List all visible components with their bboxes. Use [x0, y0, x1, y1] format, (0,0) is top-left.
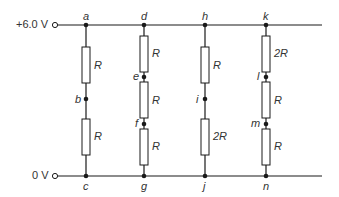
resistor-kl-value: 2R	[274, 48, 288, 59]
node-b-dot	[84, 97, 89, 102]
resistor-ab-value: R	[94, 60, 102, 71]
resistor-ef-value: R	[152, 95, 160, 106]
node-k-dot	[264, 23, 269, 28]
node-f-label: f	[135, 118, 138, 129]
node-i-dot	[203, 97, 208, 102]
node-n-dot	[264, 174, 269, 179]
node-n-label: n	[263, 181, 269, 192]
bottom-terminal	[52, 173, 57, 178]
resistor-de-value: R	[152, 48, 160, 59]
resistor-mn-value: R	[274, 141, 282, 152]
resistor-lm	[262, 82, 270, 118]
resistor-ab	[82, 47, 90, 83]
node-j-dot	[203, 174, 208, 179]
resistor-ef	[140, 82, 148, 118]
resistor-ij	[201, 119, 209, 155]
node-h-label: h	[202, 11, 208, 22]
resistor-bc	[82, 119, 90, 155]
resistor-lm-value: R	[274, 95, 282, 106]
top-rail-label: +6.0 V	[16, 19, 48, 30]
node-i-label: i	[196, 94, 198, 105]
resistor-hi	[201, 47, 209, 83]
node-g-dot	[142, 174, 147, 179]
node-m-dot	[264, 122, 269, 127]
resistor-fg	[140, 129, 148, 165]
top-terminal	[52, 22, 57, 27]
resistor-mn	[262, 129, 270, 165]
resistor-fg-value: R	[152, 141, 160, 152]
node-c-dot	[84, 174, 89, 179]
resistor-kl	[262, 36, 270, 72]
node-j-label: j	[203, 181, 205, 192]
node-a-dot	[84, 23, 89, 28]
node-e-dot	[142, 75, 147, 80]
node-d-label: d	[141, 11, 147, 22]
node-l-dot	[264, 75, 269, 80]
circuit-diagram: +6.0 V 0 V a b c d e f g h i j k l m n R…	[0, 0, 339, 197]
circuit-svg	[0, 0, 339, 197]
resistor-hi-value: R	[213, 60, 221, 71]
node-m-label: m	[251, 118, 260, 129]
resistor-bc-value: R	[94, 131, 102, 142]
node-g-label: g	[141, 181, 147, 192]
node-c-label: c	[83, 181, 89, 192]
node-l-label: l	[257, 71, 259, 82]
node-f-dot	[142, 122, 147, 127]
resistor-de	[140, 36, 148, 72]
resistor-ij-value: 2R	[213, 131, 227, 142]
node-a-label: a	[83, 11, 89, 22]
node-b-label: b	[75, 94, 81, 105]
node-d-dot	[142, 23, 147, 28]
bottom-rail-label: 0 V	[32, 170, 49, 181]
node-h-dot	[203, 23, 208, 28]
node-k-label: k	[263, 11, 269, 22]
node-e-label: e	[133, 71, 139, 82]
